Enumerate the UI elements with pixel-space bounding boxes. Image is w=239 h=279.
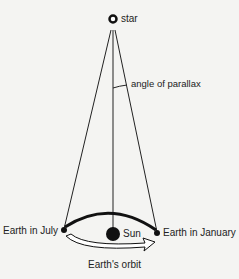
parallax-angle-arc — [113, 85, 127, 88]
sight-line-january — [115, 30, 157, 232]
star-icon — [110, 16, 117, 23]
angle-of-parallax-label: angle of parallax — [131, 79, 201, 89]
sun-icon — [106, 227, 120, 241]
earth-january-dot — [154, 230, 160, 236]
earth-july-dot — [61, 227, 67, 233]
sight-line-july — [64, 30, 111, 229]
earths-orbit-label: Earth's orbit — [88, 260, 141, 270]
sun-label: Sun — [123, 229, 141, 239]
star-label: star — [121, 14, 138, 24]
earth-january-label: Earth in January — [163, 228, 236, 238]
earth-july-label: Earth in July — [3, 226, 58, 236]
